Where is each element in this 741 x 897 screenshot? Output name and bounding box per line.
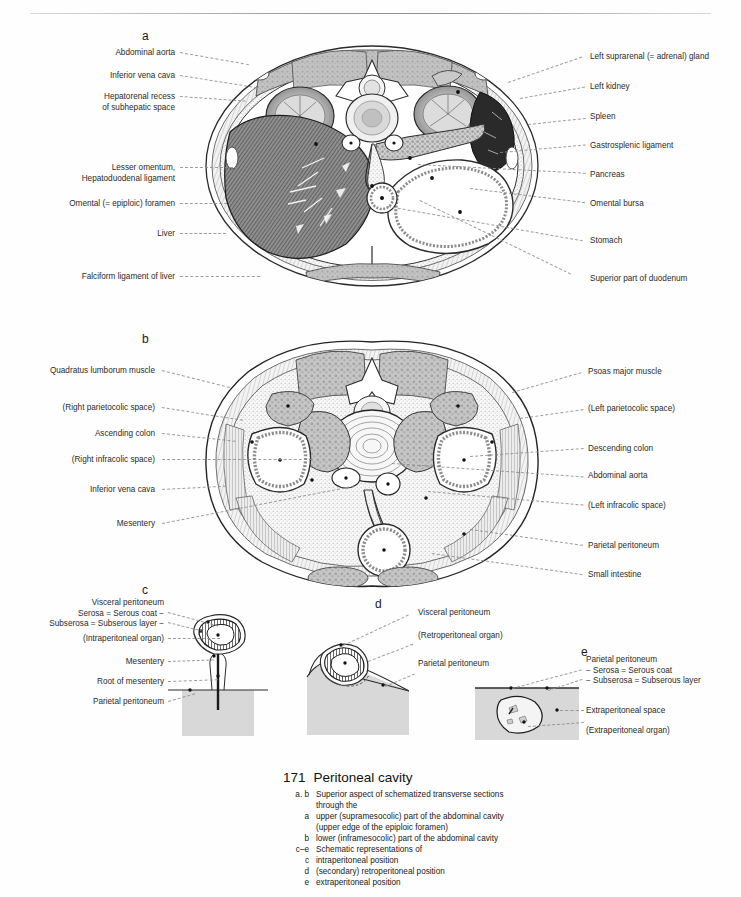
label-a-pancreas: Pancreas [590,170,740,181]
label-a-omental-foramen: Omental (= epiploic) foramen [20,199,175,210]
label-b-left-infracolic-space: (Left infracolic space) [588,501,738,512]
caption-row-ce: c–e Schematic representations of [283,844,613,855]
label-c-intraperitoneal-organ: (Intraperitoneal organ) [8,634,164,645]
leader-c-3 [168,638,220,639]
leader-a-l7 [180,276,260,277]
label-b-mesentery: Mesentery [10,519,155,530]
label-b-right-infracolic-space: (Right infracolic space) [10,455,155,466]
label-b-ascending-colon: Ascending colon [10,429,155,440]
label-d-retroperitoneal-organ: (Retroperitoneal organ) [418,631,578,642]
caption-value-ce: Schematic representations of [316,844,613,855]
label-c-parietal-peritoneum: Parietal peritoneum [8,697,164,708]
plate-number: 171 [283,770,306,785]
label-a-lesser-omentum: Lesser omentum, Hepatoduodenal ligament [20,163,175,184]
caption-value-b: lower (inframesocolic) part of the abdom… [316,833,613,844]
caption-row-b: b lower (inframesocolic) part of the abd… [283,833,613,844]
label-b-parietal-peritoneum: Parietal peritoneum [588,541,738,552]
caption-key-a: a [283,811,316,822]
label-a-abdominal-aorta: Abdominal aorta [20,48,175,59]
caption-row-c: c intraperitoneal position [283,855,613,866]
label-a-stomach: Stomach [590,236,740,247]
label-b-abdominal-aorta: Abdominal aorta [588,471,738,482]
caption-title-row: 171 Peritoneal cavity [283,770,613,785]
caption-key-d: d [283,866,316,877]
label-a-liver: Liver [20,229,175,240]
label-a-falciform-ligament: Falciform ligament of liver [20,272,175,283]
caption-row-e: e extraperitoneal position [283,877,613,888]
label-b-inferior-vena-cava: Inferior vena cava [10,485,155,496]
figure-b-transverse-section-inframesocolic [196,338,548,588]
label-a-spleen: Spleen [590,112,740,123]
caption-cont-ab: through the [283,800,613,811]
panel-letter-d: d [375,597,382,611]
figure-caption: 171 Peritoneal cavity a. b Superior aspe… [283,770,613,888]
label-b-small-intestine: Small intestine [588,570,738,581]
leader-a-l5 [180,203,232,204]
label-a-hepatorenal-recess: Hepatorenal recess of subhepatic space [20,92,175,113]
leader-a-l6 [180,233,226,234]
label-e-parietal-peritoneum-group: Parietal peritoneum − Serosa = Serous co… [586,655,738,687]
label-d-parietal-peritoneum: Parietal peritoneum [418,659,578,670]
label-e-extraperitoneal-space: Extraperitoneal space [586,706,738,717]
label-b-descending-colon: Descending colon [588,444,738,455]
label-c-visceral-peritoneum-group: Visceral peritoneum Serosa = Serous coat… [8,598,164,630]
label-c-mesentery: Mesentery [8,657,164,668]
caption-row-ab: a. b Superior aspect of schematized tran… [283,789,613,800]
label-a-left-suprarenal-gland: Left suprarenal (= adrenal) gland [590,52,740,63]
label-a-omental-bursa: Omental bursa [590,199,740,210]
caption-value-c: intraperitoneal position [316,855,613,866]
figure-e-extraperitoneal-position [475,684,579,740]
label-b-psoas-major: Psoas major muscle [588,367,738,378]
caption-key-b: b [283,833,316,844]
caption-value-e: extraperitoneal position [316,877,613,888]
atlas-page: a [0,0,741,897]
label-b-quadratus-lumborum: Quadratus lumborum muscle [10,366,155,377]
label-c-root-of-mesentery: Root of mesentery [8,677,164,688]
caption-cont-a: (upper edge of the epiploic foramen) [283,822,613,833]
label-e-extraperitoneal-organ: (Extraperitoneal organ) [586,726,738,737]
caption-key-ce: c–e [283,844,316,855]
label-a-gastrosplenic-ligament: Gastrosplenic ligament [590,141,740,152]
panel-letter-c: c [142,583,148,597]
label-b-left-parietocolic-space: (Left parietocolic space) [588,404,738,415]
label-a-inferior-vena-cava: Inferior vena cava [20,71,175,82]
leader-a-l4 [180,167,238,168]
label-b-right-parietocolic-space: (Right parietocolic space) [10,403,155,414]
plate-title: Peritoneal cavity [314,770,413,785]
caption-value-ab: Superior aspect of schematized transvers… [316,789,613,800]
label-a-left-kidney: Left kidney [590,82,740,93]
caption-key-e: e [283,877,316,888]
panel-letter-a: a [142,29,149,43]
label-d-visceral-peritoneum: Visceral peritoneum [418,608,578,619]
caption-value-a: upper (supramesocolic) part of the abdom… [316,811,613,822]
caption-key-ab: a. b [283,789,316,800]
label-a-superior-duodenum: Superior part of duodenum [590,274,740,285]
caption-value-d: (secondary) retroperitoneal position [316,866,613,877]
leader-b-l4 [162,459,312,460]
caption-row-a: a upper (supramesocolic) part of the abd… [283,811,613,822]
figure-c-intraperitoneal-position [168,614,268,736]
caption-key-c: c [283,855,316,866]
leader-e-3 [560,710,584,711]
panel-letter-b: b [142,332,149,346]
caption-row-d: d (secondary) retroperitoneal position [283,866,613,877]
header-rule [30,13,711,14]
